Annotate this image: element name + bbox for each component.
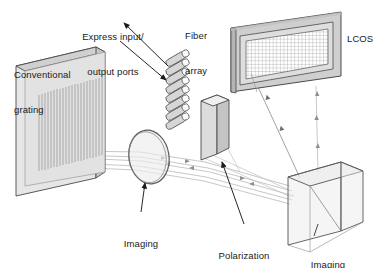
label-imaging-optics: Imaging optics — [104, 215, 178, 268]
express-ports-line-1: Express input/ — [61, 31, 165, 43]
mirror-to-lcos-ray — [316, 86, 318, 172]
imaging-optics-leader — [141, 183, 145, 212]
imaging-optics-lens — [125, 127, 173, 187]
conventional-grating-line-2: grating — [14, 104, 106, 116]
fiber-array-line-2: array — [185, 65, 235, 77]
lcos-return-ray — [253, 76, 300, 178]
polarization-diversity-optics-prism — [201, 95, 229, 160]
fiber-array-line-1: Fiber — [185, 30, 235, 42]
diagram-canvas: Express input/ output ports Fiber array … — [0, 0, 385, 268]
label-lcos: LCOS — [347, 33, 385, 45]
lcos-panel — [231, 12, 341, 93]
imaging-optics-line-1: Imaging — [104, 238, 178, 250]
label-conventional-grating: Conventional grating — [14, 46, 106, 138]
polarization-line-1: Polarization — [201, 250, 287, 262]
lcos-return-arrows — [266, 95, 285, 131]
label-fiber-array: Fiber array — [185, 7, 235, 99]
imaging-mirror-line-1: Imaging — [295, 259, 361, 268]
ray-direction-arrows — [161, 156, 254, 186]
label-imaging-mirror: Imaging mirror — [295, 236, 361, 268]
conventional-grating-line-1: Conventional — [14, 69, 106, 81]
label-polarization-diversity-optics: Polarization diversity optics — [201, 227, 287, 268]
